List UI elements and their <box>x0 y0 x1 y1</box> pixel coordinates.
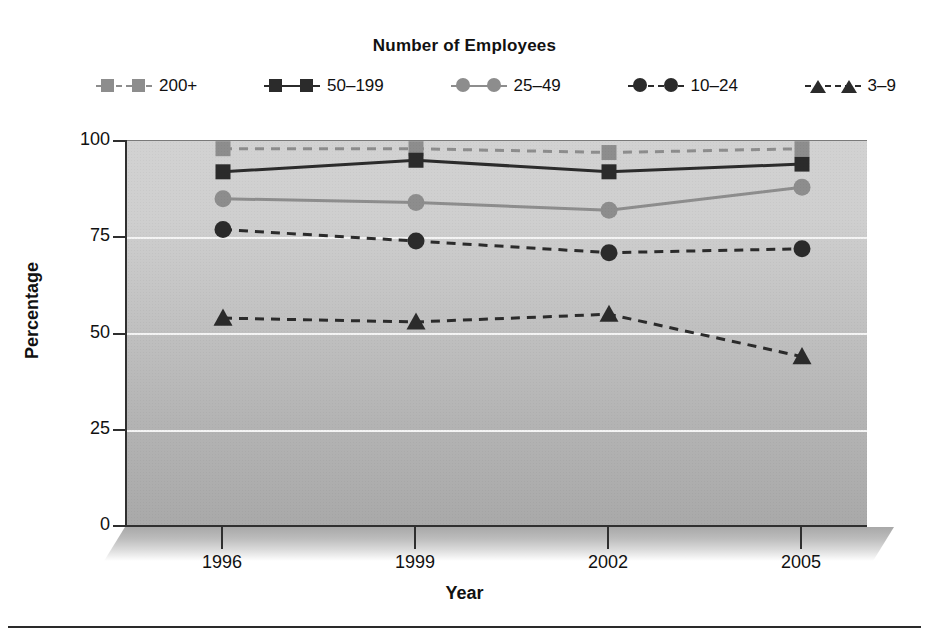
series-3-9 <box>214 305 812 364</box>
legend-item-3-9[interactable]: 3–9 <box>805 72 896 100</box>
y-tick-label-75: 75 <box>66 225 110 246</box>
data-point <box>600 305 619 322</box>
data-point <box>408 233 425 250</box>
data-point <box>602 145 617 160</box>
series-line <box>223 160 802 172</box>
footer-rule <box>8 626 921 628</box>
data-point <box>794 179 811 196</box>
legend-swatch-25-49 <box>451 76 507 96</box>
y-tickmark-25 <box>113 429 125 431</box>
y-tick-label-50: 50 <box>66 322 110 343</box>
legend-item-10-24[interactable]: 10–24 <box>628 72 738 100</box>
y-tick-75: 75 <box>48 225 110 249</box>
legend-label-200-plus: 200+ <box>159 76 197 96</box>
y-tick-0: 0 <box>48 514 110 538</box>
y-tickmark-0 <box>113 525 125 527</box>
y-tick-100: 100 <box>48 129 110 153</box>
series-25-49 <box>215 179 811 219</box>
data-point <box>409 153 424 168</box>
legend: 200+ 50–199 25–49 10–24 <box>96 72 896 100</box>
x-axis-title: Year <box>0 583 929 604</box>
data-point <box>795 157 810 172</box>
series-line <box>223 230 802 253</box>
series-200- <box>216 141 810 160</box>
legend-item-200-plus[interactable]: 200+ <box>96 72 197 100</box>
x-tickmark-2005 <box>800 527 802 549</box>
data-point <box>215 221 232 238</box>
legend-swatch-3-9 <box>805 76 861 96</box>
legend-swatch-200-plus <box>96 76 152 96</box>
series-line <box>223 149 802 153</box>
series-10-24 <box>215 221 811 261</box>
data-point <box>601 244 618 261</box>
y-tick-50: 50 <box>48 322 110 346</box>
legend-label-10-24: 10–24 <box>691 76 738 96</box>
chart-figure: Number of Employees 200+ 50–199 <box>0 0 929 642</box>
legend-label-3-9: 3–9 <box>868 76 896 96</box>
y-tickmark-50 <box>113 333 125 335</box>
legend-item-50-199[interactable]: 50–199 <box>264 72 384 100</box>
data-point <box>795 141 810 156</box>
legend-label-50-199: 50–199 <box>327 76 384 96</box>
series-50-199 <box>216 153 810 180</box>
x-tickmark-1996 <box>221 527 223 549</box>
data-point <box>794 240 811 257</box>
x-tick-label-2002: 2002 <box>563 552 653 573</box>
y-axis-title: Percentage <box>22 231 43 391</box>
legend-swatch-50-199 <box>264 76 320 96</box>
data-point <box>216 141 231 156</box>
y-tick-label-100: 100 <box>66 129 110 150</box>
y-tickmark-100 <box>113 140 125 142</box>
legend-swatch-10-24 <box>628 76 684 96</box>
data-point <box>408 194 425 211</box>
y-tick-label-0: 0 <box>66 514 110 535</box>
series-line <box>223 187 802 210</box>
data-point <box>601 202 618 219</box>
series-line <box>223 314 802 356</box>
x-tickmark-2002 <box>607 527 609 549</box>
plot-area <box>125 140 867 526</box>
x-axis-line <box>125 525 867 527</box>
series-layer <box>127 141 867 526</box>
data-point <box>215 190 232 207</box>
y-tickmark-75 <box>113 236 125 238</box>
x-tick-label-2005: 2005 <box>756 552 846 573</box>
y-tick-25: 25 <box>48 418 110 442</box>
x-tickmark-1999 <box>414 527 416 549</box>
legend-title: Number of Employees <box>0 36 929 56</box>
data-point <box>602 164 617 179</box>
x-tick-label-1999: 1999 <box>370 552 460 573</box>
data-point <box>216 164 231 179</box>
legend-item-25-49[interactable]: 25–49 <box>451 72 561 100</box>
y-axis-line <box>125 140 127 526</box>
y-tick-label-25: 25 <box>66 418 110 439</box>
legend-label-25-49: 25–49 <box>514 76 561 96</box>
x-tick-label-1996: 1996 <box>177 552 267 573</box>
